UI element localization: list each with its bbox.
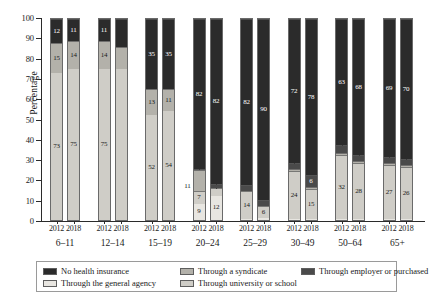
stacked-bar[interactable]: 026370 [400, 18, 413, 221]
stacked-bar[interactable]: 028368 [352, 18, 365, 221]
y-axis-tick [36, 201, 41, 202]
bar-segment: 15 [306, 189, 317, 219]
bar-segment: 63 [336, 19, 347, 145]
stacked-bar[interactable]: 731512 [50, 18, 63, 221]
legend-item[interactable]: Through a syndicate [180, 267, 267, 276]
stacked-bar[interactable]: 541135 [162, 18, 175, 221]
bar-segment: 35 [146, 19, 157, 89]
bar-segment: 13 [146, 89, 157, 115]
y-axis-tick [36, 99, 41, 100]
stacked-bar[interactable]: 1690 [257, 18, 270, 221]
bar-segment: 70 [401, 19, 412, 159]
x-axis-tick [104, 221, 105, 224]
x-axis-age-group-label: 12–14 [86, 239, 140, 249]
bar-segment: 11 [194, 170, 205, 190]
x-axis-year-label: 2018 [298, 225, 324, 233]
bar-segment: 0 [353, 219, 364, 220]
bar-segment: 6 [258, 206, 269, 218]
segment-value: 52 [148, 164, 155, 171]
x-axis-year-label: 2018 [108, 225, 134, 233]
y-axis-tick [36, 180, 41, 181]
x-axis-tick [342, 221, 343, 224]
y-axis-tick [36, 18, 41, 19]
bar-segment: 12 [51, 19, 62, 43]
x-axis-tick [199, 221, 200, 224]
x-axis-age-group-label: 50–64 [323, 239, 377, 249]
segment-value: 12 [53, 28, 60, 35]
bar-segment: 90 [258, 19, 269, 200]
y-axis-tick-label: 20 [0, 176, 34, 185]
y-axis-tick [36, 79, 41, 80]
bar-segment: 0 [384, 219, 395, 220]
bar-segment: 3 [289, 163, 300, 169]
y-axis-tick [36, 59, 41, 60]
bar-segment: 24 [289, 171, 300, 219]
stacked-bar[interactable]: 521335 [145, 18, 158, 221]
bar-segment [289, 169, 300, 171]
bar-segment [353, 161, 364, 163]
legend-item[interactable]: Through employer or purchased [301, 267, 428, 276]
x-axis-tick [152, 221, 153, 224]
legend-label: Through the general agency [61, 279, 156, 288]
y-axis-tick [36, 160, 41, 161]
x-axis-tick [359, 221, 360, 224]
segment-value: 14 [243, 202, 250, 209]
stacked-bar[interactable]: 027369 [383, 18, 396, 221]
bar-segment [258, 200, 269, 206]
stacked-bar[interactable]: 751411 [67, 18, 80, 221]
bar-segment: 54 [163, 111, 174, 220]
segment-value: 6 [262, 209, 265, 216]
bar-segment: 0 [306, 219, 317, 220]
legend-label: Through employer or purchased [319, 267, 428, 276]
bar-segment: 26 [401, 167, 412, 219]
y-axis-tick [36, 120, 41, 121]
segment-value: 26 [403, 190, 410, 197]
segment-value: 11 [101, 27, 107, 34]
y-axis-tick [36, 38, 41, 39]
bar-segment [116, 19, 127, 47]
stacked-bar[interactable]: 9711082 [193, 18, 206, 221]
segment-value: 14 [70, 52, 77, 59]
bar-segment: 32 [336, 155, 347, 219]
bar-segment: 4 [336, 145, 347, 153]
segment-value: 11 [184, 183, 190, 190]
bar-segment: 0 [336, 219, 347, 220]
legend-swatch [43, 280, 57, 287]
bar-segment: 1 [258, 218, 269, 220]
x-axis-tick [264, 221, 265, 224]
bar-segment [116, 69, 127, 220]
legend-swatch [180, 280, 194, 287]
legend-item[interactable]: Through university or school [180, 279, 297, 288]
y-axis-tick [36, 221, 41, 222]
segment-value: 75 [101, 141, 108, 148]
bar-segment: 0 [194, 169, 205, 170]
bar-segment: 82 [194, 19, 205, 169]
bar-segment: 4 [211, 188, 222, 196]
segment-value: 24 [291, 192, 298, 199]
stacked-bar[interactable]: 024372 [288, 18, 301, 221]
bar-segment: 14 [99, 41, 110, 69]
legend-item[interactable]: No health insurance [43, 267, 129, 276]
stacked-bar[interactable]: 032463 [335, 18, 348, 221]
segment-value: 13 [148, 99, 155, 106]
stacked-bar[interactable]: 124082 [210, 18, 223, 221]
segment-value: 35 [148, 51, 155, 58]
bar-segment [306, 187, 317, 189]
stacked-bar[interactable] [115, 18, 128, 221]
segment-value: 11 [70, 27, 76, 34]
legend-item[interactable]: Through the general agency [43, 279, 156, 288]
segment-value: 75 [70, 141, 77, 148]
segment-value: 73 [53, 143, 60, 150]
segment-value: 15 [53, 55, 60, 62]
segment-value: 14 [101, 52, 108, 59]
stacked-bar[interactable]: 015678 [305, 18, 318, 221]
bar-segment: 0 [289, 219, 300, 220]
x-axis-age-group-label: 15–19 [133, 239, 187, 249]
bar-segment: 69 [384, 19, 395, 157]
stacked-bar[interactable]: 01482 [240, 18, 253, 221]
stacked-bar[interactable]: 751411 [98, 18, 111, 221]
bar-segment: 72 [289, 19, 300, 163]
plot-area: 7315127514117514115213355411359711082124… [42, 18, 425, 221]
x-axis-age-group-label: 6–11 [38, 239, 92, 249]
x-axis-tick [216, 221, 217, 224]
